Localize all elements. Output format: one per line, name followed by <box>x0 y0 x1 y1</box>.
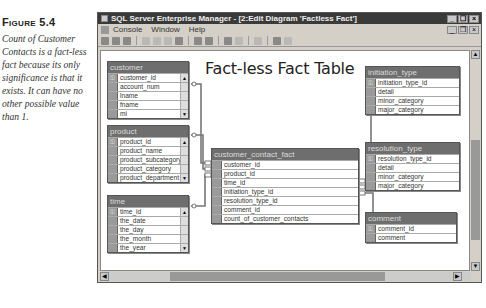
scroll-up-button[interactable]: ▲ <box>471 50 480 59</box>
column-name[interactable]: comment <box>376 234 456 242</box>
table-header[interactable]: product <box>108 126 188 137</box>
table-time[interactable]: time ⚿time_id▲ the_date the_day the_mont… <box>107 195 189 253</box>
child-restore-button[interactable]: ❐ <box>458 26 468 34</box>
caption-text: Count of Customer Contacts is a fact-les… <box>2 32 96 123</box>
column-name[interactable]: comment_id <box>222 206 358 214</box>
app-icon <box>101 15 108 22</box>
column-name[interactable]: account_num <box>118 83 180 91</box>
console-icon[interactable] <box>101 26 109 34</box>
scroll-left-button[interactable]: ◀ <box>100 272 109 281</box>
scroll-down-icon[interactable]: ▼ <box>180 110 188 118</box>
diagram-canvas[interactable]: Fact-less Fact Table customer ⚿customer_… <box>100 50 470 271</box>
scroll-down-icon[interactable]: ▼ <box>180 244 188 252</box>
print-setup-icon[interactable] <box>112 37 120 45</box>
copy-icon[interactable] <box>142 37 150 45</box>
column-name[interactable]: product_name <box>118 147 180 155</box>
scroll-up-icon[interactable]: ▲ <box>180 74 188 82</box>
child-minimize-button[interactable]: _ <box>447 26 457 34</box>
column-name[interactable]: mi <box>118 110 180 118</box>
scroll-up-icon[interactable]: ▲ <box>180 208 188 216</box>
horizontal-scrollbar[interactable]: ◀ ▶ <box>100 272 471 281</box>
scroll-down-button[interactable]: ▼ <box>471 262 480 271</box>
table-comment[interactable]: comment ⚿comment_id comment <box>365 212 457 243</box>
column-name[interactable]: comment_id <box>376 225 456 233</box>
scroll-down-icon[interactable]: ▼ <box>180 174 188 182</box>
menu-bar: Console Window Help _ ❐ × <box>98 24 481 35</box>
window-title: SQL Server Enterprise Manager - [2:Edit … <box>111 14 447 23</box>
primary-key-icon: ⚿ <box>366 79 376 87</box>
column-name[interactable]: lname <box>118 92 180 100</box>
table-initiation-type[interactable]: initiation_type ⚿initiation_type_id deta… <box>365 66 460 115</box>
figure-caption: Figure 5.4 Count of Customer Contacts is… <box>2 16 96 123</box>
column-name[interactable]: product_category <box>118 165 180 173</box>
menu-window[interactable]: Window <box>151 25 179 34</box>
column-name[interactable]: major_category <box>376 182 459 190</box>
cut-icon[interactable] <box>153 37 161 45</box>
column-name[interactable]: customer_id <box>118 74 180 82</box>
column-name[interactable]: detail <box>376 88 459 96</box>
column-name[interactable]: the_date <box>118 217 180 225</box>
column-name[interactable]: the_day <box>118 226 180 234</box>
restore-button[interactable]: ❐ <box>458 15 468 23</box>
relationship-icon[interactable] <box>284 37 292 45</box>
scroll-right-button[interactable]: ▶ <box>453 272 462 281</box>
table-customer-contact-fact[interactable]: customer_contact_fact customer_id produc… <box>211 148 359 224</box>
add-table-icon[interactable] <box>205 37 213 45</box>
column-name[interactable]: time_id <box>118 208 180 216</box>
minimize-button[interactable]: _ <box>447 15 457 23</box>
column-name[interactable]: count_of_customer_contacts <box>222 215 358 223</box>
save-icon[interactable] <box>101 37 109 45</box>
menu-help[interactable]: Help <box>189 25 205 34</box>
title-bar[interactable]: SQL Server Enterprise Manager - [2:Edit … <box>98 13 481 24</box>
column-name[interactable]: resolution_type_id <box>376 155 459 163</box>
table-header[interactable]: resolution_type <box>366 143 459 154</box>
column-name[interactable]: customer_id <box>222 161 358 169</box>
column-name[interactable]: fname <box>118 101 180 109</box>
toolbar <box>98 35 481 47</box>
column-name[interactable]: product_subcategory <box>118 156 180 164</box>
column-name[interactable]: product_id <box>222 170 358 178</box>
new-table-icon[interactable] <box>194 37 202 45</box>
close-button[interactable]: × <box>469 15 479 23</box>
layout-icon[interactable] <box>235 37 243 45</box>
column-name[interactable]: product_department <box>118 174 180 182</box>
column-name[interactable]: minor_category <box>376 97 459 105</box>
column-name[interactable]: the_year <box>118 244 180 252</box>
column-name[interactable]: product_id <box>118 138 180 146</box>
app-window: SQL Server Enterprise Manager - [2:Edit … <box>97 12 482 283</box>
column-name[interactable]: initiation_type_id <box>222 188 358 196</box>
table-header[interactable]: time <box>108 196 188 207</box>
column-name[interactable]: initiation_type_id <box>376 79 459 87</box>
column-name[interactable]: detail <box>376 164 459 172</box>
primary-key-icon: ⚿ <box>366 225 376 233</box>
table-customer[interactable]: customer ⚿customer_id▲ account_num lname… <box>107 61 189 119</box>
scroll-up-icon[interactable]: ▲ <box>180 138 188 146</box>
table-header[interactable]: comment <box>366 213 456 224</box>
primary-key-icon: ⚿ <box>108 138 118 146</box>
paste-icon[interactable] <box>164 37 172 45</box>
menu-console[interactable]: Console <box>113 25 142 34</box>
vertical-scroll-thumb[interactable] <box>471 140 480 240</box>
table-header[interactable]: initiation_type <box>366 67 459 78</box>
table-header[interactable]: customer_contact_fact <box>212 149 358 160</box>
label-icon[interactable] <box>273 37 281 45</box>
vertical-scrollbar[interactable]: ▲ ▼ <box>471 50 480 271</box>
child-close-button[interactable]: × <box>469 26 479 34</box>
table-product[interactable]: product ⚿product_id▲ product_name produc… <box>107 125 189 183</box>
horizontal-scroll-thumb[interactable] <box>170 272 385 281</box>
key-icon[interactable] <box>254 37 262 45</box>
diagram-title: Fact-less Fact Table <box>205 59 355 78</box>
properties-icon[interactable] <box>175 37 183 45</box>
primary-key-icon: ⚿ <box>108 208 118 216</box>
column-name[interactable]: time_id <box>222 179 358 187</box>
print-icon[interactable] <box>123 37 131 45</box>
column-name[interactable]: resolution_type_id <box>222 197 358 205</box>
table-header[interactable]: customer <box>108 62 188 73</box>
figure-label: Figure 5.4 <box>2 16 96 28</box>
table-resolution-type[interactable]: resolution_type ⚿resolution_type_id deta… <box>365 142 460 191</box>
column-name[interactable]: the_month <box>118 235 180 243</box>
column-name[interactable]: minor_category <box>376 173 459 181</box>
column-name[interactable]: major_category <box>376 106 459 114</box>
primary-key-icon: ⚿ <box>366 155 376 163</box>
zoom-icon[interactable] <box>224 37 232 45</box>
